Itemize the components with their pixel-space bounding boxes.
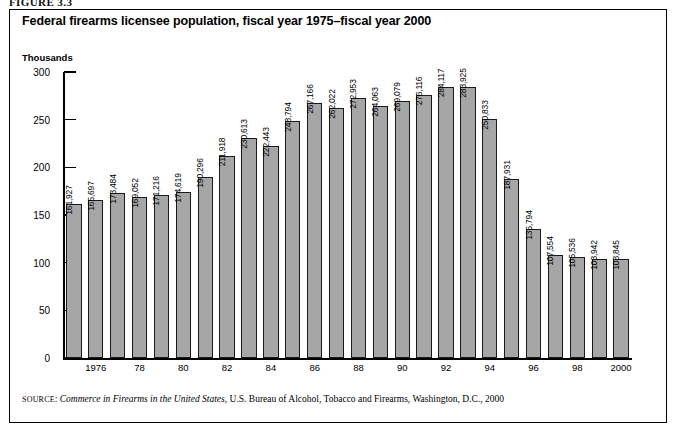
- bar[interactable]: [198, 177, 213, 358]
- chart-title: Federal firearms licensee population, fi…: [22, 14, 431, 28]
- bar[interactable]: [66, 204, 81, 358]
- bar[interactable]: [395, 101, 410, 358]
- bar[interactable]: [570, 257, 585, 358]
- y-tick-label: 0: [44, 353, 50, 364]
- x-tick-label: 98: [572, 362, 583, 373]
- x-tick-label: 80: [178, 362, 189, 373]
- source-prefix: SOURCE: [22, 395, 55, 404]
- bar-value-label: 264,063: [370, 88, 380, 117]
- bar[interactable]: [307, 103, 322, 358]
- bar-value-label: 262,022: [327, 90, 337, 119]
- bar[interactable]: [548, 255, 563, 358]
- bar-slot: 135,794: [526, 72, 541, 358]
- bar-value-label: 276,116: [414, 76, 424, 105]
- bar[interactable]: [416, 95, 431, 358]
- y-tick-label: 50: [39, 305, 50, 316]
- bar-value-label: 105,536: [567, 239, 577, 268]
- bar-value-label: 174,619: [173, 173, 183, 202]
- bar-value-label: 171,216: [151, 176, 161, 205]
- source-publication-title: Commerce in Firearms in the United State…: [60, 394, 225, 404]
- bar-slot: 264,063: [373, 72, 388, 358]
- bar-slot: 269,079: [395, 72, 410, 358]
- x-tick-label: 78: [134, 362, 145, 373]
- bar-value-label: 230,613: [239, 119, 249, 148]
- bar-value-label: 272,953: [348, 79, 358, 108]
- x-tick-label: 82: [222, 362, 233, 373]
- x-tick-label: 86: [309, 362, 320, 373]
- x-tick-label: 1976: [85, 362, 106, 373]
- source-note: SOURCE: Commerce in Firearms in the Unit…: [22, 394, 504, 404]
- y-tick-label: 200: [33, 162, 50, 173]
- y-tick-label: 150: [33, 210, 50, 221]
- bar-slot: 211,918: [219, 72, 234, 358]
- bar-value-label: 267,166: [305, 85, 315, 114]
- bar[interactable]: [154, 195, 169, 358]
- bar[interactable]: [460, 87, 475, 358]
- bar[interactable]: [526, 229, 541, 358]
- bar-value-label: 211,918: [217, 138, 227, 167]
- x-tick-label: 2000: [610, 362, 631, 373]
- x-tick-label: 96: [528, 362, 539, 373]
- x-tick-label: 88: [353, 362, 364, 373]
- bar-value-label: 222,443: [261, 127, 271, 156]
- bar[interactable]: [263, 146, 278, 358]
- bar[interactable]: [285, 121, 300, 358]
- bar[interactable]: [132, 197, 147, 358]
- bar-value-label: 284,117: [436, 69, 446, 98]
- x-axis-line: [63, 358, 632, 360]
- x-tick-label: 94: [484, 362, 495, 373]
- x-axis-labels: 197678808284868890929496982000: [63, 362, 632, 376]
- figure-number: FIGURE 3.3: [9, 0, 72, 8]
- bar-slot: 190,296: [198, 72, 213, 358]
- bar-slot: 173,484: [110, 72, 125, 358]
- bar-value-label: 173,484: [108, 174, 118, 203]
- bar-slot: 171,216: [154, 72, 169, 358]
- bar-slot: 103,845: [613, 72, 628, 358]
- bar[interactable]: [351, 98, 366, 358]
- bar[interactable]: [613, 259, 628, 358]
- bar-slot: 248,794: [285, 72, 300, 358]
- bar[interactable]: [329, 108, 344, 358]
- bar-value-label: 103,942: [589, 240, 599, 269]
- bar[interactable]: [176, 192, 191, 358]
- bar[interactable]: [110, 193, 125, 358]
- y-tick-label: 100: [33, 257, 50, 268]
- bar[interactable]: [438, 87, 453, 358]
- bar[interactable]: [88, 200, 103, 358]
- bar-slot: 187,931: [504, 72, 519, 358]
- bar-value-label: 190,296: [195, 158, 205, 187]
- bar-slot: 105,536: [570, 72, 585, 358]
- bar-value-label: 161,927: [64, 185, 74, 214]
- bar[interactable]: [241, 138, 256, 358]
- plot-area: 050100150200250300 161,927165,697173,484…: [63, 72, 632, 358]
- bar[interactable]: [373, 106, 388, 358]
- y-axis-units-label: Thousands: [22, 52, 73, 63]
- x-tick-label: 92: [441, 362, 452, 373]
- y-tick-label: 300: [33, 67, 50, 78]
- bar-value-label: 283,925: [458, 69, 468, 98]
- bar-slot: 103,942: [592, 72, 607, 358]
- bar[interactable]: [592, 259, 607, 358]
- bar-slot: 161,927: [66, 72, 81, 358]
- bar-slot: 165,697: [88, 72, 103, 358]
- bar-value-label: 269,079: [392, 83, 402, 112]
- x-tick-label: 90: [397, 362, 408, 373]
- bar-value-label: 135,794: [524, 210, 534, 239]
- bar-value-label: 165,697: [86, 181, 96, 210]
- bar-series: 161,927165,697173,484169,052171,216174,6…: [63, 72, 632, 358]
- bar[interactable]: [482, 119, 497, 358]
- bar-slot: 230,613: [241, 72, 256, 358]
- bar-slot: 262,022: [329, 72, 344, 358]
- bar[interactable]: [504, 179, 519, 358]
- bar-slot: 174,619: [176, 72, 191, 358]
- source-rest: , U.S. Bureau of Alcohol, Tobacco and Fi…: [225, 394, 504, 404]
- bar-slot: 250,833: [482, 72, 497, 358]
- bar-value-label: 169,052: [130, 178, 140, 207]
- bar-value-label: 187,931: [502, 160, 512, 189]
- bar-slot: 107,554: [548, 72, 563, 358]
- bar[interactable]: [219, 156, 234, 358]
- bar-slot: 276,116: [416, 72, 431, 358]
- bar-value-label: 248,794: [283, 102, 293, 131]
- bar-value-label: 107,554: [545, 237, 555, 266]
- bar-slot: 267,166: [307, 72, 322, 358]
